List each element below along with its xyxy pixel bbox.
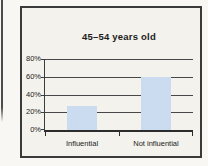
plot-area [44,59,193,132]
y-tick-label-0: 0% [20,126,41,134]
x-axis-tick-0 [45,130,46,136]
y-tick-label-20: 20% [20,108,41,116]
chart-panel: 45–54 years old 0%20%40%60%80%Influentia… [20,6,202,158]
y-tick-label-80: 80% [20,55,41,63]
chart-area: 45–54 years old 0%20%40%60%80%Influentia… [22,8,200,156]
chart-title: 45–54 years old [45,31,193,42]
x-category-label-influential: Influential [40,139,124,148]
scanned-page: 45–54 years old 0%20%40%60%80%Influentia… [0,0,208,166]
bar-not-influential [141,77,171,130]
bar-influential [67,106,97,130]
y-tick-label-40: 40% [20,91,41,99]
x-axis-tick-2 [192,130,193,136]
x-category-label-not-influential: Not influential [114,139,198,148]
y-tick-label-60: 60% [20,73,41,81]
page-edge-line [1,0,3,122]
gridline-80 [45,59,193,60]
x-axis-tick-1 [119,130,120,136]
